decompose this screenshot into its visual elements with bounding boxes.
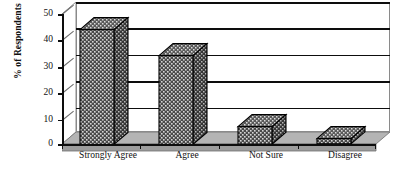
gridline-50 xyxy=(76,2,390,4)
y-axis-title: % of Respondents xyxy=(13,0,23,101)
x-tick-0 xyxy=(62,144,63,149)
x-tick-2 xyxy=(219,144,220,149)
y-tick-label-20: 20 xyxy=(44,88,54,98)
chart-side-wall xyxy=(62,2,76,144)
x-label-agree: Agree xyxy=(175,150,198,160)
x-label-disagree: Disagree xyxy=(328,150,362,160)
bar-agree xyxy=(159,43,221,144)
y-tick-label-50: 50 xyxy=(44,9,54,19)
x-tick-4 xyxy=(375,144,376,149)
x-axis-labels: Strongly Agree Agree Not Sure Disagree xyxy=(62,150,390,166)
y-tick-50: 50 xyxy=(58,14,64,16)
y-tick-label-0: 0 xyxy=(48,139,53,149)
bar-not-sure xyxy=(238,114,300,144)
y-tick-40: 40 xyxy=(58,40,64,42)
y-tick-20: 20 xyxy=(58,93,64,95)
x-tick-1 xyxy=(140,144,141,149)
bar-disagree xyxy=(317,126,379,144)
y-tick-label-30: 30 xyxy=(44,62,54,72)
y-axis-line xyxy=(62,14,64,144)
plot-area: 50 40 30 20 10 0 xyxy=(62,14,376,144)
y-tick-label-10: 10 xyxy=(44,115,54,125)
x-label-not-sure: Not Sure xyxy=(249,150,283,160)
y-tick-30: 30 xyxy=(58,67,64,69)
y-tick-10: 10 xyxy=(58,120,64,122)
bar-strongly-agree xyxy=(80,17,142,144)
x-label-strongly-agree: Strongly Agree xyxy=(79,150,137,160)
y-tick-label-40: 40 xyxy=(44,36,54,46)
bar-chart: % of Respondents xyxy=(0,0,398,181)
x-tick-3 xyxy=(298,144,299,149)
